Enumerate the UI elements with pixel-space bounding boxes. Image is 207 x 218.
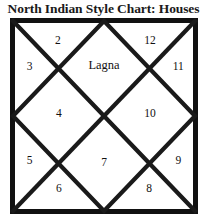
house-label-12: 12 bbox=[144, 34, 156, 46]
chart-lines bbox=[10, 18, 198, 214]
house-label-5: 5 bbox=[27, 154, 33, 166]
house-label-6: 6 bbox=[56, 182, 62, 194]
house-label-4: 4 bbox=[56, 107, 62, 119]
house-label-3: 3 bbox=[27, 60, 33, 72]
house-label-8: 8 bbox=[146, 182, 152, 194]
house-label-1: Lagna bbox=[88, 58, 119, 73]
house-label-7: 7 bbox=[101, 156, 107, 168]
house-label-2: 2 bbox=[55, 34, 61, 46]
north-indian-chart-page: North Indian Style Chart: Houses Lagna 2… bbox=[0, 0, 207, 218]
house-label-11: 11 bbox=[173, 60, 184, 72]
house-label-9: 9 bbox=[175, 154, 181, 166]
house-label-10: 10 bbox=[144, 107, 156, 119]
page-title: North Indian Style Chart: Houses bbox=[0, 0, 207, 18]
chart-figure: Lagna 2 3 4 5 6 7 8 9 10 11 12 bbox=[10, 18, 198, 214]
